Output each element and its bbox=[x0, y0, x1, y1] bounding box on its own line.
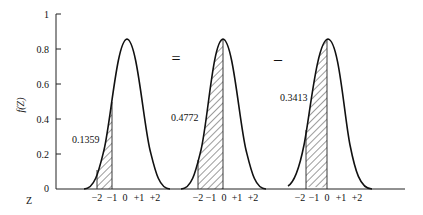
y-tick-1: 1 bbox=[44, 9, 49, 20]
minus-operator: – bbox=[273, 50, 283, 67]
panel-right: 0.3413 −2 −1 0 +1 +2 bbox=[280, 39, 372, 203]
normal-distribution-figure: 1 0.8 0.6 0.4 0.2 0 f(Z) Z 0.1359 −2 −1 … bbox=[0, 0, 423, 215]
x-tick-plus2: +2 bbox=[150, 192, 161, 203]
x-tick-0: 0 bbox=[325, 192, 330, 203]
panel-middle: 0.4772 −2 −1 0 +1 +2 bbox=[171, 39, 266, 203]
x-tick-minus1: −1 bbox=[107, 192, 118, 203]
normal-curve-3 bbox=[288, 39, 372, 189]
x-tick-minus2: −2 bbox=[295, 192, 306, 203]
y-axis bbox=[56, 14, 61, 189]
normal-curve-1 bbox=[84, 39, 170, 189]
x-tick-minus2: −2 bbox=[92, 192, 103, 203]
x-tick-plus2: +2 bbox=[248, 192, 259, 203]
equals-operator: = bbox=[171, 50, 180, 67]
area-label-1: 0.1359 bbox=[72, 134, 100, 145]
x-axis-title: Z bbox=[26, 195, 32, 206]
x-tick-minus1: −1 bbox=[206, 192, 217, 203]
x-tick-0: 0 bbox=[123, 192, 128, 203]
y-tick-0.8: 0.8 bbox=[37, 44, 50, 55]
area-label-2: 0.4772 bbox=[171, 112, 199, 123]
shaded-area-1 bbox=[84, 39, 170, 189]
x-tick-0: 0 bbox=[222, 192, 227, 203]
y-tick-0.4: 0.4 bbox=[37, 114, 50, 125]
area-label-3: 0.3413 bbox=[280, 92, 308, 103]
panel-left: 0.1359 −2 −1 0 +1 +2 bbox=[72, 39, 170, 203]
x-tick-plus2: +2 bbox=[352, 192, 363, 203]
shaded-area-3 bbox=[288, 39, 372, 189]
x-tick-minus1: −1 bbox=[309, 192, 320, 203]
y-tick-0: 0 bbox=[44, 183, 49, 194]
y-tick-0.2: 0.2 bbox=[37, 149, 50, 160]
x-tick-plus1: +1 bbox=[134, 192, 145, 203]
y-axis-title: f(Z) bbox=[15, 97, 27, 113]
x-tick-minus2: −2 bbox=[193, 192, 204, 203]
x-tick-plus1: +1 bbox=[336, 192, 347, 203]
y-tick-0.6: 0.6 bbox=[37, 79, 50, 90]
x-tick-plus1: +1 bbox=[232, 192, 243, 203]
